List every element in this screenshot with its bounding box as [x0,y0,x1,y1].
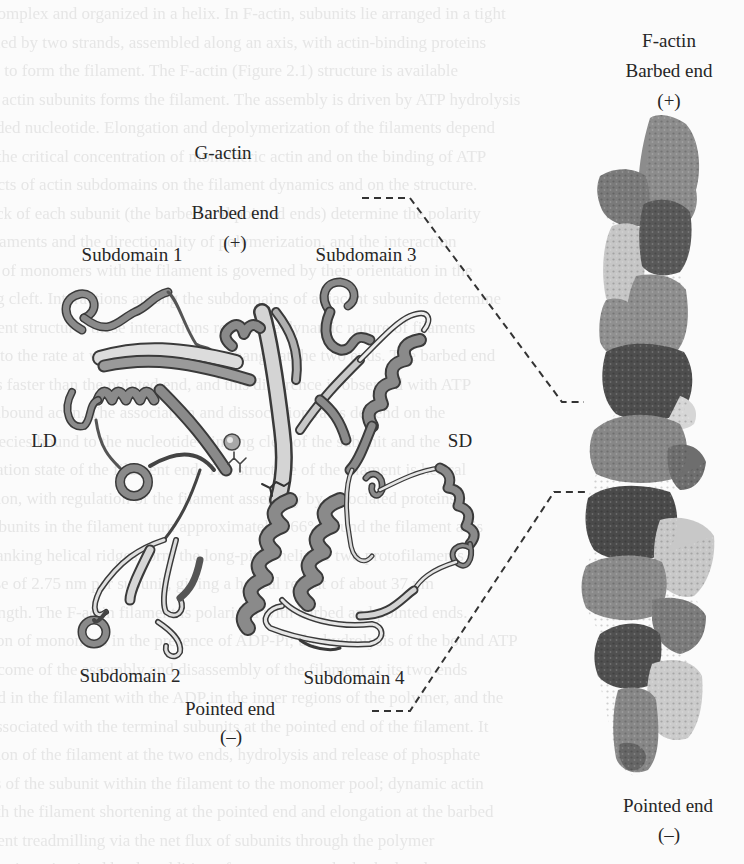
f-actin-barbed-sign: (+) [634,90,704,112]
subdomain-4-label: Subdomain 4 [284,667,424,689]
subdomain-1-label: Subdomain 1 [62,244,202,266]
subdomain-1-ribbon [66,292,250,470]
g-actin-ribbon-structure [66,282,474,656]
figure-artwork [0,0,744,864]
dashed-connector-lines [362,198,586,711]
domain-ld-label: LD [24,430,64,452]
g-actin-pointed-sign: (–) [196,726,266,748]
subdomain-3-ribbon [225,282,428,500]
g-actin-pointed-end-label: Pointed end [160,698,300,720]
g-actin-title: G-actin [168,142,278,164]
f-actin-barbed-end-label: Barbed end [604,60,734,82]
f-actin-filament [582,115,715,776]
f-actin-pointed-end-label: Pointed end [598,795,738,817]
subdomain-2-ribbon [82,468,200,656]
g-actin-barbed-sign: (+) [200,232,270,254]
f-actin-pointed-sign: (–) [634,824,704,846]
g-actin-barbed-end-label: Barbed end [170,202,300,224]
f-actin-title: F-actin [614,30,724,52]
subdomain-2-label: Subdomain 2 [60,665,200,687]
domain-sd-label: SD [440,430,480,452]
subdomain-3-label: Subdomain 3 [296,244,436,266]
